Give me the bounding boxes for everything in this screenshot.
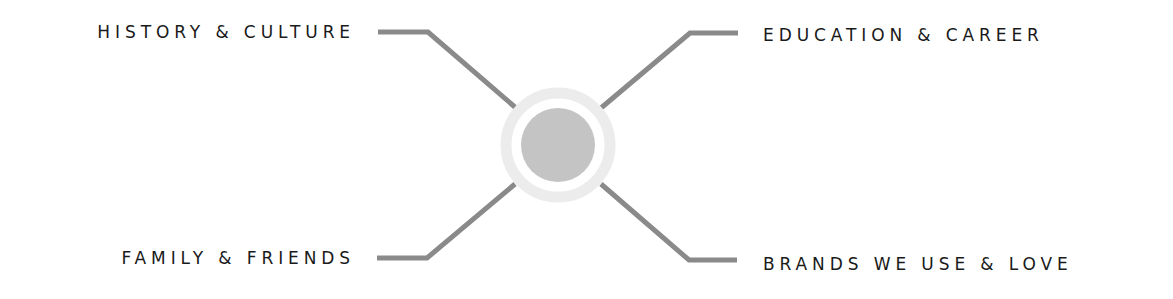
connector-top-right <box>601 33 738 108</box>
connector-bottom-left <box>377 184 515 258</box>
mind-map-diagram: HISTORY & CULTURE EDUCATION & CAREER FAM… <box>0 0 1173 299</box>
center-inner-disc <box>521 108 595 182</box>
connector-top-left <box>378 32 516 108</box>
branch-label-history-culture: HISTORY & CULTURE <box>97 24 355 41</box>
connector-bottom-right <box>601 184 737 260</box>
branch-label-family-friends: FAMILY & FRIENDS <box>121 250 355 267</box>
branch-label-brands-we-use-love: BRANDS WE USE & LOVE <box>763 256 1073 273</box>
branch-label-education-career: EDUCATION & CAREER <box>763 27 1044 44</box>
